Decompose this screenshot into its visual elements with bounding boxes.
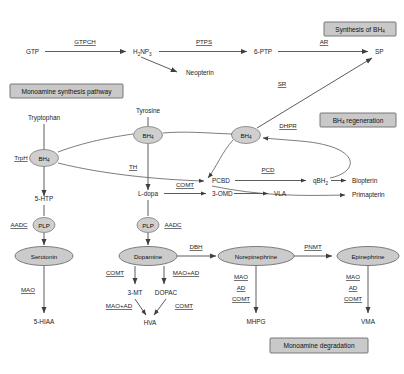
- node-tryptophan: Tryptophan: [28, 114, 61, 122]
- enzyme-pcd: PCD: [261, 166, 275, 173]
- enzyme-dbh: DBH: [189, 243, 202, 250]
- enzyme-mao-serotonin: MAO: [21, 286, 35, 293]
- enzyme-ad-epi: AD: [349, 284, 358, 291]
- node-l-dopa: L-dopa: [138, 190, 158, 198]
- node-plp-serotonin: PLP: [33, 218, 55, 233]
- enzyme-th: TH: [129, 163, 137, 170]
- node-gtp: GTP: [26, 48, 39, 55]
- node-dopamine: Dopamine: [119, 247, 177, 266]
- enzyme-comt-ne: COMT: [232, 295, 250, 302]
- section-box-monoamine-synthesis: Monoamine synthesis pathway: [10, 84, 123, 98]
- enzyme-gtpch: GTPCH: [74, 38, 96, 45]
- section-box-bh4-regeneration: BH4 regeneration: [320, 113, 396, 127]
- enzyme-comt-dopamine: COMT: [106, 269, 124, 276]
- enzyme-comt-epi: COMT: [344, 295, 362, 302]
- enzyme-ptps: PTPS: [196, 38, 212, 45]
- node-h2np3: H2NP3: [133, 48, 152, 57]
- section-label-monoamine-degradation: Monoamine degradation: [283, 342, 354, 350]
- node-primapterin: Primapterin: [352, 191, 385, 199]
- enzyme-comt-ldopa: COMT: [176, 181, 194, 188]
- node-norepinephrine: Norepinephrine: [218, 247, 294, 266]
- enzyme-ad-ne: AD: [237, 284, 246, 291]
- svg-text:PLP: PLP: [142, 222, 154, 229]
- node-epinephrine: Epinephrine: [337, 247, 399, 266]
- enzyme-sr: SR: [278, 80, 287, 87]
- node-hva: HVA: [144, 319, 157, 326]
- node-5-htp: 5-HTP: [35, 195, 53, 202]
- node-dopac: DOPAC: [155, 289, 178, 296]
- enzyme-mao-ne: MAO: [234, 273, 248, 280]
- enzyme-mao-ad-dopamine: MAO+AD: [173, 269, 200, 276]
- svg-text:PLP: PLP: [38, 222, 50, 229]
- node-biopterin: Biopterin: [352, 177, 378, 185]
- section-box-synthesis-bh4: Synthesis of BH4: [324, 22, 396, 36]
- node-bh4-th: BH4: [134, 127, 163, 144]
- section-label-synthesis-bh4: Synthesis of BH: [335, 26, 382, 34]
- node-3-mt: 3-MT: [128, 289, 143, 296]
- node-3-omd: 3-OMD: [212, 190, 233, 197]
- section-box-monoamine-degradation: Monoamine degradation: [270, 338, 368, 353]
- diagram-canvas: Synthesis of BH4 Monoamine synthesis pat…: [0, 0, 404, 374]
- node-plp-dopamine: PLP: [137, 218, 159, 233]
- node-qbh2: qBH2: [313, 177, 328, 186]
- enzyme-ar: AR: [320, 38, 329, 45]
- node-vla: VLA: [274, 190, 287, 197]
- node-neopterin: Neopterin: [186, 69, 214, 77]
- section-label-bh4-regeneration: BH: [333, 117, 342, 124]
- enzyme-dhpr: DHPR: [279, 122, 297, 129]
- enzyme-mao-ad-hva: MAO+AD: [106, 302, 133, 309]
- enzyme-trph: TrpH: [14, 154, 28, 161]
- node-bh4-trph: BH4: [30, 150, 59, 167]
- node-bh4-regeneration-pool: BH4: [232, 127, 261, 144]
- node-pcbd: PCBD: [212, 177, 230, 184]
- section-label-synthesis-bh4-sub: 4: [382, 29, 385, 34]
- node-5-hiaa: 5-HIAA: [34, 318, 55, 325]
- svg-text:Dopamine: Dopamine: [134, 253, 163, 260]
- enzyme-comt-hva: COMT: [175, 302, 193, 309]
- enzyme-mao-epi: MAO: [346, 273, 360, 280]
- svg-text:Epinephrine: Epinephrine: [351, 253, 385, 260]
- node-tyrosine: Tyrosine: [136, 107, 161, 115]
- node-serotonin: Serotonin: [15, 247, 73, 266]
- svg-text:Serotonin: Serotonin: [31, 253, 58, 260]
- node-mhpg: MHPG: [246, 318, 265, 325]
- svg-text:Norepinephrine: Norepinephrine: [235, 253, 278, 260]
- node-6-ptp: 6-PTP: [254, 48, 272, 55]
- enzyme-aadc-dopamine: AADC: [164, 221, 182, 228]
- enzyme-aadc-serotonin: AADC: [10, 221, 28, 228]
- section-label-monoamine-synthesis: Monoamine synthesis pathway: [21, 88, 112, 96]
- node-sp: SP: [375, 48, 384, 55]
- pathway-diagram: Synthesis of BH4 Monoamine synthesis pat…: [0, 0, 404, 374]
- node-vma: VMA: [361, 318, 376, 325]
- enzyme-pnmt: PNMT: [304, 243, 322, 250]
- section-label-bh4-regeneration-tail: regeneration: [344, 117, 383, 125]
